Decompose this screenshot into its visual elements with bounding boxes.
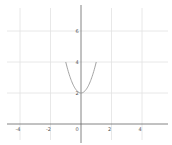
x-tick-label: 0 (75, 126, 78, 132)
axes (7, 5, 168, 143)
x-tick-label: 2 (108, 126, 111, 132)
tick-labels: -4-2024246 (16, 28, 142, 132)
x-tick-label: -2 (46, 126, 51, 132)
y-tick-label: 4 (75, 59, 78, 65)
x-tick-label: 4 (138, 126, 141, 132)
y-tick-label: 6 (75, 28, 78, 34)
grid-lines (7, 8, 168, 140)
function-graph: -4-2024246 (0, 0, 172, 145)
x-tick-label: -4 (16, 126, 21, 132)
